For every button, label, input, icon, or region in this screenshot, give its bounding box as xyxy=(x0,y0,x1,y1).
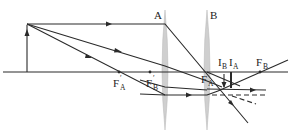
ray2-arrow-icon xyxy=(114,48,122,53)
ray3-arrow2-icon xyxy=(186,93,192,98)
label-fa-prime: F ′ A xyxy=(113,74,126,92)
svg-text:B: B xyxy=(153,83,158,92)
svg-text:F: F xyxy=(113,77,119,89)
svg-text:′: ′ xyxy=(153,74,155,83)
svg-text:B: B xyxy=(263,62,268,71)
diagram-svg: A B F ′ A F ′ B F A I B I A F B xyxy=(0,0,291,131)
ray-parallel xyxy=(27,24,248,123)
ray-exit-arrow-icon xyxy=(250,88,256,93)
ray1-arrow-icon xyxy=(106,22,112,27)
two-lens-ray-diagram: A B F ′ A F ′ B F A I B I A F B xyxy=(0,0,291,131)
svg-text:′: ′ xyxy=(120,74,122,83)
svg-text:A: A xyxy=(208,79,214,88)
focal-point-fb-prime xyxy=(149,71,152,74)
svg-text:F: F xyxy=(201,73,207,85)
focal-point-fa-prime xyxy=(118,71,121,74)
label-lens-a: A xyxy=(154,9,162,21)
ray-exit-horizontal xyxy=(207,89,266,90)
label-ib: I B xyxy=(218,56,227,71)
ray3-arrow-icon xyxy=(85,54,92,58)
ray-central xyxy=(27,24,222,87)
svg-text:F: F xyxy=(256,56,262,68)
label-lens-b: B xyxy=(210,9,217,21)
label-ia: I A xyxy=(229,56,239,71)
dashed-extension-2 xyxy=(232,96,256,104)
focal-point-fb xyxy=(259,71,262,74)
label-fb-prime: F ′ B xyxy=(146,74,158,92)
svg-text:A: A xyxy=(233,62,239,71)
svg-text:F: F xyxy=(146,77,152,89)
svg-text:B: B xyxy=(222,62,227,71)
object-arrowhead-icon xyxy=(25,29,30,36)
label-fb: F B xyxy=(256,56,268,71)
lens-b xyxy=(204,10,210,130)
ray-lower-left xyxy=(140,94,165,95)
svg-text:A: A xyxy=(120,83,126,92)
lens-a xyxy=(162,10,168,130)
